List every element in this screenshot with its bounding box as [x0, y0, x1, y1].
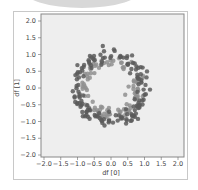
data-point — [88, 76, 92, 80]
data-point — [93, 113, 97, 117]
data-point — [126, 84, 130, 88]
data-point — [73, 94, 77, 98]
data-point — [77, 75, 81, 79]
x-axis-ticks: −2.0−1.5−1.0−0.50.00.51.01.52.0 — [36, 157, 183, 168]
x-tick-label: 0.0 — [106, 160, 116, 168]
data-point — [84, 110, 88, 114]
data-point — [75, 102, 79, 106]
x-tick-label: 2.0 — [173, 160, 183, 168]
data-point — [86, 94, 90, 98]
data-point — [91, 100, 95, 104]
data-point — [92, 108, 96, 112]
scatter-chart: −2.0−1.5−1.0−0.50.00.51.01.52.0 2.01.51.… — [0, 0, 198, 190]
data-point — [128, 71, 132, 75]
x-tick-label: 1.5 — [156, 160, 166, 168]
data-point — [76, 70, 80, 74]
data-point — [109, 62, 113, 66]
data-point — [112, 47, 116, 51]
data-point — [75, 63, 79, 67]
data-point — [111, 120, 115, 124]
plot-area — [41, 14, 184, 157]
y-tick-label: 1.5 — [26, 34, 36, 42]
data-point — [136, 82, 140, 86]
data-point — [87, 117, 91, 121]
data-point — [107, 110, 111, 114]
data-point — [80, 110, 84, 114]
data-point — [81, 93, 85, 97]
data-point — [81, 74, 85, 78]
data-point — [143, 83, 147, 87]
data-point — [125, 54, 129, 58]
data-point — [123, 93, 127, 97]
data-point — [98, 53, 102, 57]
data-point — [136, 66, 140, 70]
data-point — [101, 44, 105, 48]
data-point — [105, 60, 109, 64]
data-point — [130, 114, 134, 118]
y-tick-label: −1.0 — [20, 118, 36, 126]
data-point — [133, 61, 137, 65]
data-point — [94, 62, 98, 66]
y-tick-label: −1.5 — [20, 134, 36, 142]
data-point — [136, 117, 140, 121]
data-point — [89, 55, 93, 59]
data-point — [116, 118, 120, 122]
y-tick-label: 2.0 — [26, 17, 36, 25]
data-point — [80, 81, 84, 85]
data-point — [148, 87, 152, 91]
data-point — [103, 55, 107, 59]
data-point — [129, 119, 133, 123]
data-point — [128, 103, 132, 107]
data-point — [102, 49, 106, 53]
data-point — [99, 63, 103, 67]
data-point — [118, 55, 122, 59]
y-axis-ticks: 2.01.51.00.50.0−0.5−1.0−1.5−2.0 — [20, 17, 41, 159]
data-point — [120, 60, 124, 64]
data-point — [81, 114, 85, 118]
data-point — [76, 90, 80, 94]
x-tick-label: −1.5 — [53, 160, 69, 168]
data-point — [144, 75, 148, 79]
data-point — [100, 119, 104, 123]
data-point — [125, 112, 129, 116]
data-point — [109, 54, 113, 58]
y-tick-label: 0.0 — [26, 84, 36, 92]
data-point — [124, 107, 128, 111]
x-tick-label: 0.5 — [123, 160, 133, 168]
data-point — [125, 118, 129, 122]
x-tick-label: 1.0 — [139, 160, 149, 168]
data-point — [71, 89, 75, 93]
data-point — [89, 63, 93, 67]
x-tick-label: −0.5 — [86, 160, 102, 168]
data-point — [102, 123, 106, 127]
data-point — [131, 84, 135, 88]
data-point — [145, 69, 149, 73]
data-point — [107, 120, 111, 124]
x-tick-label: −2.0 — [36, 160, 52, 168]
data-point — [85, 103, 89, 107]
data-point — [74, 84, 78, 88]
y-tick-label: 1.0 — [26, 51, 36, 59]
y-tick-label: −0.5 — [20, 101, 36, 109]
y-tick-label: −2.0 — [20, 151, 36, 159]
data-point — [129, 67, 133, 71]
data-point — [97, 111, 101, 115]
data-point — [136, 104, 140, 108]
data-point — [133, 97, 137, 101]
data-point — [141, 87, 145, 91]
data-point — [120, 116, 124, 120]
y-tick-label: 0.5 — [26, 67, 36, 75]
data-point — [130, 53, 134, 57]
data-point — [132, 104, 136, 108]
data-point — [144, 92, 148, 96]
data-point — [102, 111, 106, 115]
data-point — [80, 87, 84, 91]
data-point — [122, 65, 126, 69]
data-point — [80, 68, 84, 72]
data-point — [140, 65, 144, 69]
data-point — [89, 71, 93, 75]
y-axis-label: df [1] — [13, 79, 21, 97]
data-point — [135, 90, 139, 94]
data-point — [82, 63, 86, 67]
data-point — [140, 98, 144, 102]
